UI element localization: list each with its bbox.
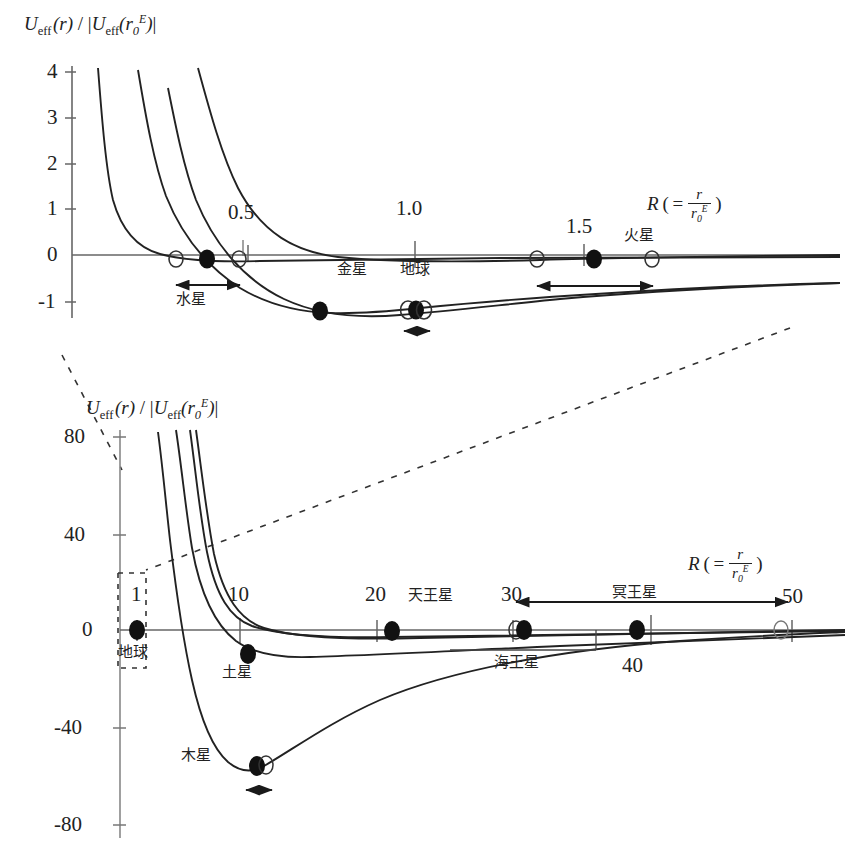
ytick-label-minus1: -1: [38, 291, 56, 312]
ytick-label-0: 0: [47, 244, 58, 265]
planet-label-uranus: 天王星: [408, 588, 453, 603]
figure-canvas: [0, 0, 858, 852]
curve-mercury: [98, 68, 840, 261]
curve-mars: [198, 68, 840, 262]
x-axis-label-top: R ( = rr0E ): [647, 186, 722, 225]
xtick-label-20: 20: [365, 584, 386, 605]
ytick-label-80: 80: [64, 426, 85, 447]
bottom-panel-axes: [113, 430, 845, 838]
top-panel-markers: [169, 240, 659, 331]
planet-label-mars: 火星: [624, 228, 654, 243]
top-panel-curves: [98, 68, 840, 316]
curve-saturn: [176, 430, 845, 657]
xtick-label-50: 50: [782, 586, 803, 607]
y-axis-label-top: Ueff (r) / |Ueff(r0E)|: [24, 14, 156, 38]
xtick-label-30: 30: [501, 584, 522, 605]
ytick-label-minus80: -80: [54, 814, 82, 835]
planet-label-jupiter: 木星: [181, 748, 211, 763]
ytick-label-40: 40: [64, 524, 85, 545]
planet-label-neptune: 海王星: [494, 655, 539, 670]
xtick-label-1: 1: [131, 584, 142, 605]
curve-uranus: [190, 430, 845, 637]
planet-label-earth-bottom: 地球: [118, 645, 148, 660]
xtick-label-0-5: 0.5: [228, 202, 254, 223]
ytick-label-0b: 0: [82, 619, 93, 640]
planet-label-pluto: 冥王星: [612, 585, 657, 600]
xtick-label-1-5: 1.5: [566, 216, 592, 237]
top-panel-axes: [65, 66, 840, 318]
y-axis-label-bottom: Ueff (r) / |Ueff(r0E)|: [86, 398, 218, 422]
curve-neptune: [196, 430, 845, 639]
ytick-label-1: 1: [47, 198, 58, 219]
curve-venus: [138, 70, 840, 313]
planet-label-venus: 金星: [337, 262, 367, 277]
ytick-label-minus40: -40: [54, 717, 82, 738]
ytick-label-4: 4: [47, 61, 58, 82]
ytick-label-3: 3: [47, 107, 58, 128]
curve-earth: [168, 88, 840, 316]
x-axis-label-bottom: R ( = rr0E ): [688, 546, 763, 585]
xtick-label-1-0: 1.0: [396, 198, 422, 219]
planet-label-mercury: 水星: [176, 292, 206, 307]
planet-label-saturn: 土星: [222, 665, 252, 680]
inset-connector-lines: [62, 328, 790, 570]
xtick-label-40: 40: [622, 655, 643, 676]
ytick-label-2: 2: [47, 153, 58, 174]
figure-root: Ueff (r) / |Ueff(r0E)| 4 3 2 1 0 -1 0.5 …: [0, 0, 858, 852]
xtick-label-10: 10: [228, 584, 249, 605]
planet-label-earth: 地球: [400, 262, 430, 277]
